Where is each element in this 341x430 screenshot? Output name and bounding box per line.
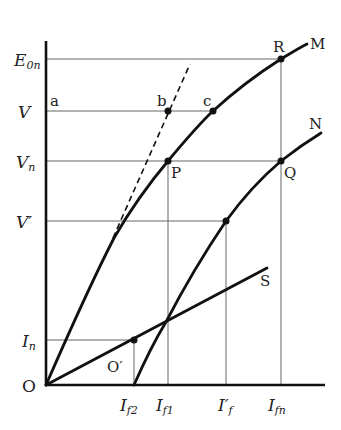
- axes: [45, 41, 325, 386]
- label-a: a: [50, 92, 59, 110]
- label-vn: Vn: [16, 152, 35, 174]
- curve-s-short-circuit: [46, 268, 267, 385]
- point-n-vprime: [223, 218, 230, 225]
- label-r: R: [273, 38, 285, 56]
- label-if2: If2: [119, 395, 138, 417]
- label-if1: If1: [155, 395, 174, 417]
- label-b: b: [157, 92, 167, 110]
- label-m: M: [310, 35, 325, 53]
- label-e0n: E0n: [13, 50, 41, 72]
- label-ifprime: I′f: [217, 395, 235, 417]
- label-s: S: [260, 272, 270, 290]
- label-vprime: V′: [16, 212, 32, 232]
- label-v: V: [18, 102, 32, 122]
- generator-characteristics-diagram: E0n V Vn V′ In O If2 If1 I′f Ifn a b c R…: [0, 0, 341, 430]
- point-o-prime: [131, 337, 138, 344]
- air-gap-dashed-line: [113, 64, 190, 238]
- label-c: c: [203, 92, 211, 110]
- label-p: P: [171, 164, 181, 182]
- curve-m-no-load: [46, 44, 307, 385]
- label-in: In: [21, 331, 36, 353]
- label-q: Q: [284, 164, 296, 182]
- label-o-prime: O′: [107, 358, 123, 376]
- label-ifn: Ifn: [267, 395, 286, 417]
- label-origin: O: [22, 376, 36, 396]
- point-r: [278, 56, 285, 63]
- label-n: N: [309, 115, 322, 133]
